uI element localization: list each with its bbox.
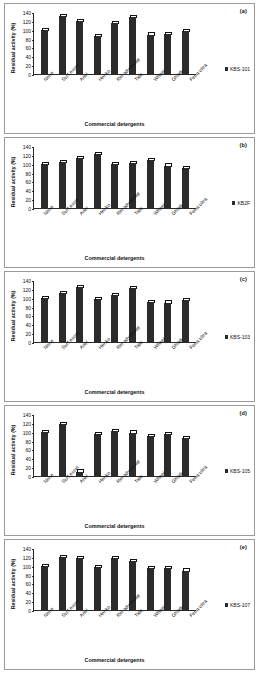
error-bar xyxy=(165,566,172,569)
bar-column xyxy=(41,147,48,208)
bar-column xyxy=(59,415,66,476)
bar xyxy=(147,302,154,342)
error-bar xyxy=(130,559,137,562)
y-tick-label: 100 xyxy=(23,564,31,569)
bar-column xyxy=(111,415,118,476)
bar-column xyxy=(94,147,101,208)
legend-label: KBS-107 xyxy=(230,602,250,608)
chart-legend: KB2F xyxy=(232,200,250,206)
error-bar xyxy=(60,14,67,17)
y-tick-label: 120 xyxy=(23,421,31,426)
legend-swatch-icon xyxy=(225,469,228,472)
error-bar xyxy=(77,156,84,159)
y-axis-ticks: 020406080100120140 xyxy=(17,549,32,611)
bar xyxy=(111,23,118,74)
error-bar xyxy=(112,21,119,24)
error-bar xyxy=(165,163,172,166)
bar xyxy=(164,303,171,342)
legend-label: KBS-101 xyxy=(230,66,250,72)
bar xyxy=(182,571,189,610)
error-bar xyxy=(148,566,155,569)
y-tick-label: 20 xyxy=(25,600,31,605)
bar-column xyxy=(59,13,66,74)
error-bar xyxy=(130,15,137,18)
y-axis-ticks: 020406080100120140 xyxy=(17,281,32,343)
x-axis-labels: NoneSurf excelArielHenkoRin advancedTide… xyxy=(33,478,196,510)
error-bar xyxy=(60,422,67,425)
bar xyxy=(164,434,171,476)
x-axis-labels: NoneSurf excelArielHenkoRin advancedTide… xyxy=(33,76,196,108)
x-axis-labels: NoneSurf excelArielHenkoRin advancedTide… xyxy=(33,612,196,644)
panel-label: (b) xyxy=(239,142,247,148)
y-tick-label: 140 xyxy=(23,145,31,150)
bar xyxy=(111,431,118,476)
legend-swatch-icon xyxy=(225,335,228,338)
bar-column xyxy=(164,549,171,610)
error-bar xyxy=(183,166,190,169)
bar-column xyxy=(164,147,171,208)
y-tick-label: 0 xyxy=(28,475,31,480)
error-bar xyxy=(112,556,119,559)
legend-label: KB2F xyxy=(237,200,250,206)
y-tick-label: 100 xyxy=(23,162,31,167)
x-axis-title: Commercial detergents xyxy=(33,523,196,529)
y-tick-label: 0 xyxy=(28,207,31,212)
x-axis-labels: NoneSurf excelArielHenkoRin advancedTide… xyxy=(33,344,196,376)
y-tick-label: 0 xyxy=(28,341,31,346)
error-bar xyxy=(60,291,67,294)
bar-column xyxy=(164,281,171,342)
bar xyxy=(147,35,154,74)
bar-column xyxy=(94,281,101,342)
bar-column xyxy=(41,415,48,476)
y-tick-label: 120 xyxy=(23,287,31,292)
y-axis-title-text: Residual activity (%) xyxy=(10,157,16,207)
bar-column xyxy=(147,13,154,74)
legend-swatch-icon xyxy=(232,201,235,204)
error-bar xyxy=(95,297,102,300)
bar-column xyxy=(59,281,66,342)
x-axis-title: Commercial detergents xyxy=(33,255,196,261)
bar-column xyxy=(59,147,66,208)
x-axis-labels: NoneSurf excelArielHenkoRin advancedTide… xyxy=(33,210,196,242)
y-tick-label: 120 xyxy=(23,19,31,24)
bar-column xyxy=(164,13,171,74)
error-bar xyxy=(112,429,119,432)
error-bar xyxy=(148,158,155,161)
y-tick-label: 80 xyxy=(25,37,31,42)
y-tick-label: 80 xyxy=(25,573,31,578)
bar xyxy=(147,436,154,476)
bar xyxy=(94,299,101,342)
bar-column xyxy=(111,147,118,208)
panel-label: (c) xyxy=(240,276,247,282)
bar-column xyxy=(94,415,101,476)
bar xyxy=(94,36,101,74)
error-bar xyxy=(60,160,67,163)
legend-label: KBS-105 xyxy=(230,468,250,474)
y-tick-label: 120 xyxy=(23,555,31,560)
panel-label: (a) xyxy=(240,8,247,14)
y-tick-label: 20 xyxy=(25,64,31,69)
bar-column xyxy=(111,13,118,74)
bar-series xyxy=(34,549,196,610)
y-tick-label: 140 xyxy=(23,11,31,16)
y-tick-label: 100 xyxy=(23,28,31,33)
bar xyxy=(182,31,189,74)
chart-panel-a: (a)Residual activity (%)0204060801001201… xyxy=(4,3,255,134)
bar xyxy=(111,558,118,610)
bar xyxy=(164,568,171,610)
error-bar xyxy=(95,432,102,435)
bar-column xyxy=(111,549,118,610)
bar-column xyxy=(182,281,189,342)
y-tick-label: 40 xyxy=(25,55,31,60)
bar xyxy=(94,567,101,610)
chart-legend: KBS-107 xyxy=(225,602,250,608)
bar-column xyxy=(182,415,189,476)
y-tick-label: 140 xyxy=(23,547,31,552)
plot-area xyxy=(33,147,196,209)
y-tick-label: 40 xyxy=(25,189,31,194)
x-axis-title: Commercial detergents xyxy=(33,121,196,127)
bar xyxy=(41,566,48,610)
error-bar xyxy=(148,300,155,303)
bar xyxy=(111,295,118,342)
error-bar xyxy=(60,555,67,558)
